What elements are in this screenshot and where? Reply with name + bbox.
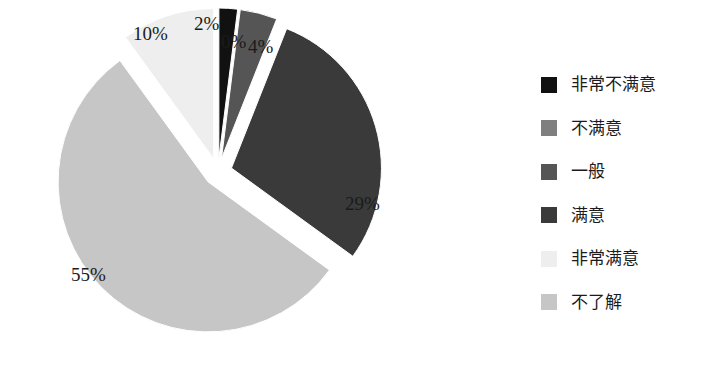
legend-item-4: 非常满意: [541, 237, 711, 281]
legend-label-5: 不了解: [571, 294, 622, 311]
legend-swatch-icon-2: [541, 164, 557, 180]
legend-label-2: 一般: [571, 163, 605, 180]
pie-label-29: 29%: [345, 193, 380, 215]
legend-label-1: 不满意: [571, 120, 622, 137]
legend-swatch-icon-3: [541, 207, 557, 223]
legend-label-4: 非常满意: [571, 250, 639, 267]
pie-plot-area: 10% 2% 0% 4% 29% 55%: [0, 0, 470, 379]
pie-label-55: 55%: [71, 264, 106, 286]
pie-svg: [0, 0, 470, 379]
legend-item-3: 满意: [541, 194, 711, 238]
pie-label-0: 0%: [221, 31, 246, 53]
legend-label-0: 非常不满意: [571, 76, 656, 93]
legend-swatch-icon-0: [541, 77, 557, 93]
legend: 非常不满意 不满意 一般 满意 非常满意 不了解: [541, 63, 711, 324]
legend-item-1: 不满意: [541, 107, 711, 151]
legend-item-2: 一般: [541, 150, 711, 194]
legend-swatch-icon-1: [541, 120, 557, 136]
legend-label-3: 满意: [571, 207, 605, 224]
pie-label-4: 4%: [248, 36, 273, 58]
legend-swatch-icon-4: [541, 251, 557, 267]
pie-label-10: 10%: [133, 23, 168, 45]
pie-label-2: 2%: [194, 13, 219, 35]
legend-item-5: 不了解: [541, 281, 711, 325]
pie-chart: 10% 2% 0% 4% 29% 55% 非常不满意 不满意 一般 满意 非常满…: [0, 0, 717, 379]
legend-swatch-icon-5: [541, 294, 557, 310]
legend-item-0: 非常不满意: [541, 63, 711, 107]
